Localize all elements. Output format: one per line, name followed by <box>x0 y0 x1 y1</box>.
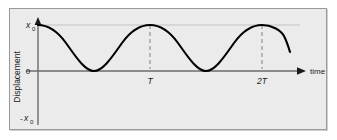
y-tick-label-x0: x <box>25 20 31 30</box>
x-axis-label: time <box>310 67 326 76</box>
x-axis-arrowhead <box>297 67 306 75</box>
y-axis-arrowhead <box>35 17 42 25</box>
y-tick-label-minus-x0: x <box>23 113 29 123</box>
y-tick-label-minus-x0-subscript: 0 <box>30 119 34 125</box>
y-tick-label-zero: 0 <box>26 67 31 76</box>
y-axis-label: Displacement <box>12 51 22 103</box>
x-tick-label-T: T <box>147 76 153 86</box>
figure-panel: x 0 0 - x 0 T 2T time Displacement <box>9 8 327 130</box>
y-tick-label-minus-sign: - <box>20 114 23 123</box>
y-tick-label-x0-subscript: 0 <box>32 26 36 32</box>
displacement-curve <box>38 25 290 71</box>
x-tick-label-2T: 2T <box>256 76 268 86</box>
displacement-time-graph: x 0 0 - x 0 T 2T time Displacement <box>10 9 328 131</box>
